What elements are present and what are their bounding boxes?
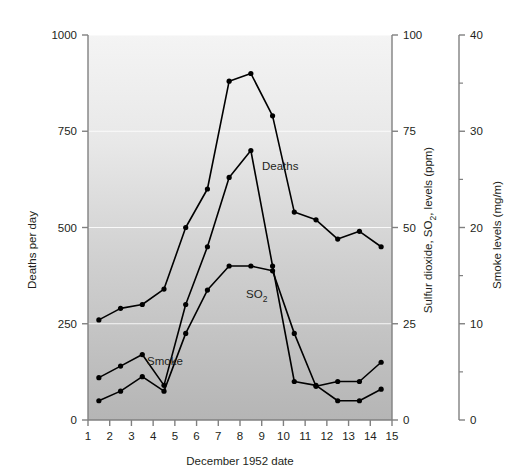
- smoke-axis: 010203040: [459, 29, 483, 426]
- data-point: [118, 364, 123, 369]
- date-tick-label: 8: [237, 430, 243, 442]
- date-tick-label: 1: [85, 430, 91, 442]
- smoke-tick-label: 20: [470, 222, 483, 234]
- data-point: [96, 398, 101, 403]
- data-point: [140, 352, 145, 357]
- so2-tick-label: 75: [403, 125, 416, 137]
- deaths-tick-label: 250: [58, 318, 77, 330]
- chart-root: 02505007501000 0255075100 010203040 1234…: [0, 0, 515, 476]
- deaths-axis: 02505007501000: [51, 29, 88, 426]
- data-point: [96, 317, 101, 322]
- data-point: [357, 379, 362, 384]
- smoke-tick-label: 30: [470, 125, 483, 137]
- date-tick-label: 12: [320, 430, 333, 442]
- date-tick-label: 4: [150, 430, 157, 442]
- so2-axis: 0255075100: [392, 29, 422, 426]
- smoke-axis-title: Smoke levels (mg/m): [491, 181, 503, 289]
- date-tick-label: 14: [364, 430, 377, 442]
- date-tick-label: 5: [172, 430, 178, 442]
- data-point: [379, 387, 384, 392]
- data-point: [335, 236, 340, 241]
- so2-axis-title: Sulfur dioxide, SO2, levels (ppm): [422, 147, 438, 314]
- deaths-axis-title: Deaths per day: [26, 211, 38, 289]
- data-point: [270, 113, 275, 118]
- date-tick-label: 11: [299, 430, 311, 442]
- smoke-tick-label: 40: [470, 29, 483, 41]
- deaths-tick-label: 750: [58, 125, 77, 137]
- data-point: [161, 287, 166, 292]
- date-tick-label: 15: [386, 430, 399, 442]
- data-point: [227, 263, 232, 268]
- series-annotation-smoke: Smoke: [147, 355, 183, 367]
- date-tick-label: 10: [277, 430, 290, 442]
- deaths-tick-label: 0: [71, 414, 77, 426]
- data-point: [248, 148, 253, 153]
- data-point: [118, 389, 123, 394]
- data-point: [335, 398, 340, 403]
- data-point: [183, 302, 188, 307]
- data-point: [96, 375, 101, 380]
- data-point: [248, 263, 253, 268]
- data-point: [379, 360, 384, 365]
- data-point: [292, 331, 297, 336]
- data-point: [292, 210, 297, 215]
- series-annotation-deaths: Deaths: [262, 160, 299, 172]
- data-point: [205, 244, 210, 249]
- data-point: [118, 306, 123, 311]
- data-point: [227, 79, 232, 84]
- date-axis: 123456789101112131415: [85, 420, 399, 442]
- so2-tick-label: 25: [403, 318, 416, 330]
- date-tick-label: 7: [215, 430, 221, 442]
- so2-tick-label: 100: [403, 29, 422, 41]
- date-tick-label: 2: [107, 430, 113, 442]
- deaths-tick-label: 500: [58, 222, 77, 234]
- data-point: [205, 287, 210, 292]
- data-point: [357, 229, 362, 234]
- data-point: [313, 217, 318, 222]
- data-point: [140, 374, 145, 379]
- data-point: [183, 331, 188, 336]
- london-smog-1952-chart: 02505007501000 0255075100 010203040 1234…: [0, 0, 515, 476]
- date-tick-label: 9: [259, 430, 265, 442]
- data-point: [270, 268, 275, 273]
- data-point: [335, 379, 340, 384]
- data-point: [227, 175, 232, 180]
- smoke-tick-label: 10: [470, 318, 483, 330]
- date-tick-label: 13: [342, 430, 355, 442]
- so2-tick-label: 50: [403, 222, 416, 234]
- data-point: [313, 384, 318, 389]
- date-tick-label: 6: [193, 430, 199, 442]
- so2-tick-label: 0: [403, 414, 409, 426]
- data-point: [270, 263, 275, 268]
- deaths-tick-label: 1000: [51, 29, 77, 41]
- data-point: [357, 398, 362, 403]
- date-tick-label: 3: [128, 430, 134, 442]
- data-point: [140, 302, 145, 307]
- data-point: [161, 389, 166, 394]
- date-axis-title: December 1952 date: [186, 455, 293, 467]
- data-point: [292, 379, 297, 384]
- data-point: [248, 71, 253, 76]
- smoke-tick-label: 0: [470, 414, 476, 426]
- data-point: [205, 186, 210, 191]
- data-point: [183, 225, 188, 230]
- data-point: [379, 244, 384, 249]
